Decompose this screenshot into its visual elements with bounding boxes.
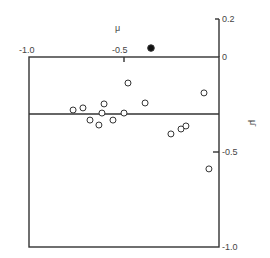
y-tick-label: -0.5 [222,147,238,157]
open-point [183,123,189,129]
y-axis-label: μ̄ [248,120,258,127]
open-point [80,105,86,111]
scatter-chart: -1.0-0.50.20-0.5-1.0μμ̄ [0,0,270,258]
open-point [168,131,174,137]
open-point [201,90,207,96]
open-point [99,110,105,116]
open-point [96,122,102,128]
x-tick-label: -1.0 [19,45,35,55]
filled-point [148,45,155,52]
y-tick-label: 0.2 [222,14,235,24]
open-point [121,110,127,116]
open-point [101,101,107,107]
open-point [206,166,212,172]
open-point [110,117,116,123]
y-tick-label: 0 [222,52,227,62]
open-point [70,107,76,113]
x-axis-label: μ [115,23,120,33]
open-point [87,117,93,123]
open-point [142,100,148,106]
open-point [125,80,131,86]
data-points [70,45,212,172]
x-tick-label: -0.5 [112,45,128,55]
plot-frame [29,57,219,247]
axes: -1.0-0.50.20-0.5-1.0μμ̄ [19,14,258,252]
y-tick-label: -1.0 [222,242,238,252]
